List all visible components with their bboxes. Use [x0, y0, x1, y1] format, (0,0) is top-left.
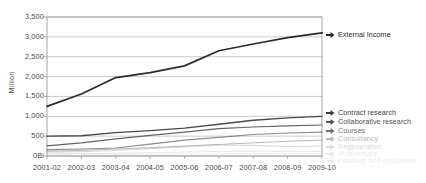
arrow-right-icon [326, 118, 335, 126]
arrow-right-icon [326, 109, 335, 117]
arrow-right-icon [326, 31, 335, 39]
line-chart: 3,5003,0002,5002,0001,5001,0005000Bi Mil… [0, 0, 426, 183]
legend-item-label: Contract research [338, 109, 396, 117]
legend-item[interactable]: Contract research [326, 108, 396, 117]
x-axis-tick-label: 2006-07 [205, 163, 233, 172]
x-axis-ticks [47, 156, 322, 159]
x-axis-tick-label: 2004-05 [136, 163, 164, 172]
data-series [47, 33, 322, 155]
x-axis-tick-labels: 2001-022002-032003-042004-052005-062006-… [47, 163, 322, 177]
x-axis-tick-label: 2001-02 [33, 163, 61, 172]
series-line [47, 33, 322, 106]
legend-item[interactable]: Facilities and equipment [326, 156, 417, 165]
x-axis-tick-label: 2003-04 [102, 163, 130, 172]
legend-item[interactable]: Collaborative research [326, 117, 411, 126]
chart-legend: External IncomeContract researchCollabor… [326, 22, 426, 162]
arrow-right-icon [326, 157, 335, 165]
x-axis-tick-label: 2002-03 [67, 163, 95, 172]
x-axis-tick-label: 2005-06 [171, 163, 199, 172]
legend-item-label: Collaborative research [338, 118, 411, 126]
legend-item[interactable]: External Income [326, 30, 391, 39]
legend-item-label: External Income [338, 31, 391, 39]
x-axis-tick-label: 2007-08 [239, 163, 267, 172]
legend-item-label: Facilities and equipment [338, 157, 417, 165]
x-axis-tick-label: 2008-09 [274, 163, 302, 172]
